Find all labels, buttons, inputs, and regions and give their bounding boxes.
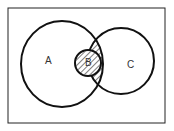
label-c: C (127, 59, 134, 70)
label-a: A (45, 55, 52, 66)
label-b: B (85, 57, 92, 68)
venn-diagram: A B C (0, 0, 174, 131)
